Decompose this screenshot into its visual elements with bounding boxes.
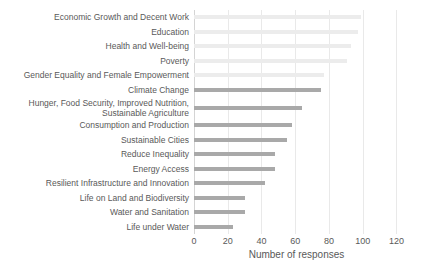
bar-track — [194, 83, 425, 98]
category-label: Gender Equality and Female Empowerment — [0, 70, 189, 80]
bar — [194, 30, 358, 34]
category-label: Resilient Infrastructure and Innovation — [0, 178, 189, 188]
x-tick-label: 0 — [191, 236, 196, 246]
category-label: Climate Change — [0, 85, 189, 95]
bar-row: Resilient Infrastructure and Innovation — [0, 176, 425, 191]
responses-bar-chart: Economic Growth and Decent WorkEducation… — [0, 0, 425, 272]
bar-track — [194, 68, 425, 83]
category-label: Economic Growth and Decent Work — [0, 12, 189, 22]
category-label: Life under Water — [0, 222, 189, 232]
bar-row: Water and Sanitation — [0, 205, 425, 220]
bar-track — [194, 191, 425, 206]
x-tick-label: 40 — [256, 236, 266, 246]
x-tick-label: 20 — [223, 236, 233, 246]
bar — [194, 210, 245, 214]
bar-row: Energy Access — [0, 162, 425, 177]
bar-track — [194, 39, 425, 54]
category-label: Consumption and Production — [0, 120, 189, 130]
bar — [194, 15, 361, 19]
bar — [194, 44, 351, 48]
bar-track — [194, 10, 425, 25]
bar-track — [194, 54, 425, 69]
bar-track — [194, 162, 425, 177]
bar-track — [194, 147, 425, 162]
bar — [194, 73, 324, 77]
bar — [194, 123, 292, 127]
bar-track — [194, 205, 425, 220]
bar-track — [194, 118, 425, 133]
category-label: Poverty — [0, 56, 189, 66]
category-label: Water and Sanitation — [0, 207, 189, 217]
x-tick-label: 60 — [290, 236, 300, 246]
bar-row: Consumption and Production — [0, 118, 425, 133]
bar-track — [194, 25, 425, 40]
bar-track — [194, 133, 425, 148]
bar-row: Climate Change — [0, 83, 425, 98]
category-label: Reduce Inequality — [0, 149, 189, 159]
bar-track — [194, 176, 425, 191]
bar-row: Hunger, Food Security, Improved Nutritio… — [0, 97, 425, 118]
bar — [194, 138, 287, 142]
bar-row: Reduce Inequality — [0, 147, 425, 162]
x-tick-label: 100 — [355, 236, 370, 246]
x-axis-title: Number of responses — [194, 249, 399, 260]
category-label: Health and Well-being — [0, 41, 189, 51]
bar — [194, 196, 245, 200]
category-label: Hunger, Food Security, Improved Nutritio… — [0, 98, 189, 118]
category-label: Education — [0, 27, 189, 37]
bar-row: Sustainable Cities — [0, 133, 425, 148]
x-axis-ticks: 020406080100120 — [194, 236, 399, 247]
bar — [194, 88, 321, 92]
bar-row: Poverty — [0, 54, 425, 69]
bar — [194, 181, 265, 185]
bar-row: Gender Equality and Female Empowerment — [0, 68, 425, 83]
bar — [194, 106, 302, 110]
category-label: Energy Access — [0, 164, 189, 174]
bar-row: Life under Water — [0, 220, 425, 235]
plot-area: Economic Growth and Decent WorkEducation… — [0, 10, 425, 234]
category-label: Life on Land and Biodiversity — [0, 193, 189, 203]
bar — [194, 167, 275, 171]
bar-track — [194, 97, 425, 118]
bar-row: Life on Land and Biodiversity — [0, 191, 425, 206]
x-tick-label: 80 — [324, 236, 334, 246]
bar — [194, 225, 233, 229]
bar — [194, 152, 275, 156]
bar-row: Health and Well-being — [0, 39, 425, 54]
bar-row: Education — [0, 25, 425, 40]
category-label: Sustainable Cities — [0, 135, 189, 145]
x-tick-label: 120 — [389, 236, 404, 246]
bar-track — [194, 220, 425, 235]
bar-row: Economic Growth and Decent Work — [0, 10, 425, 25]
bar — [194, 59, 347, 63]
